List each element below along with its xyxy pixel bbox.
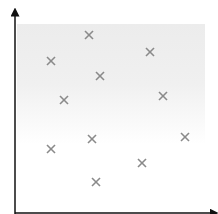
data-points (47, 31, 189, 186)
x-mark-icon (47, 145, 55, 153)
x-mark-icon (181, 133, 189, 141)
x-mark-icon (92, 178, 100, 186)
x-mark-icon (47, 57, 55, 65)
x-mark-icon (60, 96, 68, 104)
x-mark-icon (85, 31, 93, 39)
x-mark-icon (96, 72, 104, 80)
x-mark-icon (88, 135, 96, 143)
x-mark-icon (146, 48, 154, 56)
x-mark-icon (159, 92, 167, 100)
x-mark-icon (138, 159, 146, 167)
scatter-plot (0, 0, 218, 214)
